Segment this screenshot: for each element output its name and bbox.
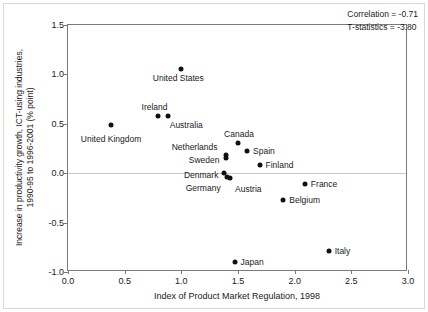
data-point-marker[interactable] [228, 176, 233, 181]
data-point-marker[interactable] [165, 113, 170, 118]
x-tick-label: 0.5 [118, 276, 131, 286]
tstatistics-text: T-statistics = -3.80 [347, 21, 418, 34]
data-point-marker[interactable] [245, 149, 250, 154]
data-point-marker[interactable] [236, 140, 241, 145]
data-point-label: Japan [241, 257, 264, 267]
data-point-label: Italy [335, 246, 351, 256]
x-tick-label: 2.0 [288, 276, 301, 286]
data-point-label: Canada [224, 129, 254, 139]
data-point-marker[interactable] [179, 67, 184, 72]
data-point-marker[interactable] [302, 182, 307, 187]
data-point-marker[interactable] [223, 156, 228, 161]
x-tick-label: 3.0 [402, 276, 415, 286]
data-point-label: Ireland [142, 102, 168, 112]
y-axis-title-line-2: 1990-95 to 1996-2001 (% point) [25, 24, 36, 271]
data-point-label: Spain [253, 146, 275, 156]
x-tick-mark [295, 270, 296, 274]
data-point-marker[interactable] [281, 197, 286, 202]
plot-area: 1.51.00.50.0-0.5-1.0 0.00.51.01.52.02.53… [67, 24, 407, 271]
x-tick-mark [181, 270, 182, 274]
y-tick-mark [64, 74, 68, 75]
y-tick-mark [64, 124, 68, 125]
statistics-annotation: Correlation = -0.71 T-statistics = -3.80 [347, 8, 418, 34]
data-point-label: Netherlands [68, 142, 218, 152]
y-tick-label: 0.0 [51, 168, 64, 178]
data-point-marker[interactable] [326, 249, 331, 254]
y-tick-label: -0.5 [48, 218, 64, 228]
data-point-marker[interactable] [109, 122, 114, 127]
x-axis-title: Index of Product Market Regulation, 1998 [67, 291, 407, 301]
x-tick-label: 0.0 [62, 276, 75, 286]
data-point-label: Belgium [289, 195, 320, 205]
y-tick-mark [64, 223, 68, 224]
x-tick-label: 1.0 [175, 276, 188, 286]
y-axis-title-line-1: Increase in productivity growth, ICT-usi… [14, 24, 25, 271]
x-tick-mark [408, 270, 409, 274]
y-tick-label: 1.0 [51, 69, 64, 79]
correlation-text: Correlation = -0.71 [347, 8, 418, 21]
y-axis-title: Increase in productivity growth, ICT-usi… [14, 24, 40, 271]
data-point-label: Austria [235, 184, 261, 194]
data-point-label: Finland [266, 160, 294, 170]
scatter-chart-figure: Increase in productivity growth, ICT-usi… [0, 0, 428, 312]
x-tick-mark [68, 270, 69, 274]
y-tick-label: 1.5 [51, 20, 64, 30]
y-tick-label: 0.5 [51, 119, 64, 129]
x-tick-mark [238, 270, 239, 274]
data-point-label: Germany [68, 183, 221, 193]
data-point-label: Denmark [68, 170, 218, 180]
data-point-label: United States [153, 73, 204, 83]
data-point-marker[interactable] [257, 163, 262, 168]
data-point-marker[interactable] [232, 260, 237, 265]
y-tick-mark [64, 25, 68, 26]
x-tick-mark [351, 270, 352, 274]
data-point-label: Sweden [68, 155, 220, 165]
x-tick-label: 1.5 [232, 276, 245, 286]
data-point-marker[interactable] [155, 113, 160, 118]
data-point-label: France [311, 179, 337, 189]
x-tick-mark [125, 270, 126, 274]
data-point-label: Australia [170, 120, 203, 130]
x-tick-label: 2.5 [345, 276, 358, 286]
